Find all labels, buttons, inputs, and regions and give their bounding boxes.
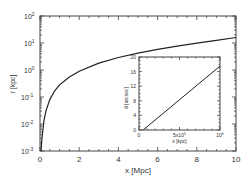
inset-x-tick-0: 0 (138, 132, 141, 138)
y-tick-label-1e1: 101 (24, 38, 35, 47)
inset-y-tick-12: 12 (130, 83, 136, 89)
x-tick-8: 8 (195, 155, 200, 164)
inset-y-tick-4: 4 (133, 112, 136, 118)
x-axis-label: x [Mpc] (125, 166, 151, 175)
inset-y-tick-0: 0 (133, 127, 136, 133)
x-tick-4: 4 (116, 155, 121, 164)
y-tick-label-1e-2: 10-2 (21, 119, 33, 128)
svg-text:10-3: 10-3 (21, 146, 33, 155)
chart-canvas: 0 2 4 6 8 10 x [Mpc] 102 101 100 10-1 10… (0, 0, 251, 180)
svg-text:101: 101 (24, 38, 35, 47)
y-tick-label-1e-1: 10-1 (21, 92, 33, 101)
x-tick-6: 6 (155, 155, 160, 164)
svg-text:102: 102 (24, 11, 35, 20)
y-tick-label-1e-3: 10-3 (21, 146, 33, 155)
y-tick-label-1e2: 102 (24, 11, 35, 20)
inset-y-tick-8: 8 (133, 98, 136, 104)
inset-y-axis-label: θ [arcsec] (123, 87, 129, 109)
svg-text:100: 100 (24, 65, 35, 74)
x-tick-2: 2 (77, 155, 82, 164)
inset-x-tick-1e6: 106 (216, 132, 224, 138)
x-tick-0: 0 (38, 155, 43, 164)
x-tick-10: 10 (232, 155, 241, 164)
inset-y-tick-16: 16 (130, 69, 136, 75)
svg-text:10-2: 10-2 (21, 119, 33, 128)
svg-text:10-1: 10-1 (21, 92, 33, 101)
inset-y-tick-20: 20 (130, 54, 136, 60)
y-tick-label-1e0: 100 (24, 65, 35, 74)
inset-plot-frame (139, 57, 220, 130)
y-axis-label: r [kpc] (9, 74, 17, 93)
inset-x-axis-label: s [kpc] (172, 138, 187, 144)
